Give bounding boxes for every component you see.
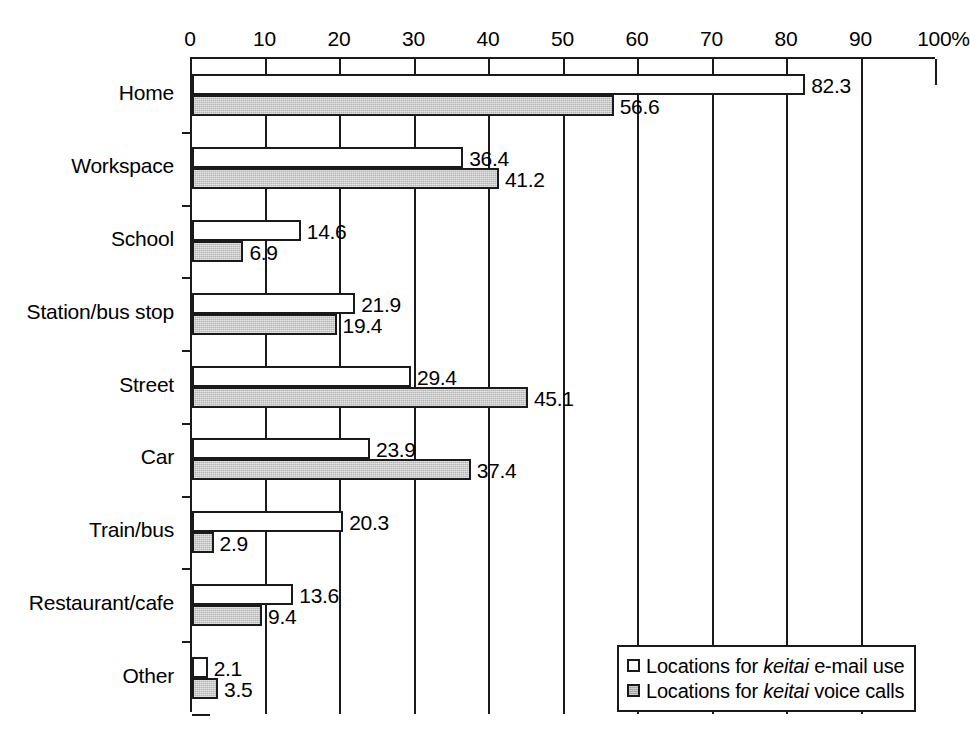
bar-value-label: 6.9 [249, 242, 277, 263]
bar-email [192, 293, 355, 314]
y-axis-category-label: Other [122, 664, 174, 688]
bar-value-label: 23.9 [376, 439, 416, 460]
plot-area: 82.356.636.441.214.66.921.919.429.445.12… [190, 57, 935, 712]
bar-email [192, 657, 208, 678]
y-axis-tick [182, 568, 192, 570]
bar-value-label: 45.1 [534, 388, 574, 409]
x-axis-tick-label: 100% [917, 26, 970, 52]
y-axis-category-label: Train/bus [89, 518, 174, 542]
plot-right-edge [935, 59, 937, 85]
x-axis-tick-label: 0 [184, 26, 195, 52]
y-axis-category-label: Car [141, 445, 174, 469]
bar-value-label: 13.6 [299, 585, 339, 606]
y-axis-tick [182, 641, 192, 643]
bar-value-label: 56.6 [620, 96, 660, 117]
y-axis-category-label: Restaurant/cafe [29, 591, 174, 615]
legend-item-email: Locations for keitai e-mail use [627, 653, 904, 678]
legend-swatch-voice-icon [627, 684, 640, 697]
x-axis-tick-label: 80 [775, 26, 798, 52]
legend-swatch-email-icon [627, 659, 640, 672]
legend-label-emphasis: keitai [763, 680, 809, 702]
bar-email [192, 366, 411, 387]
x-axis-tick-labels: 0102030405060708090100% [0, 26, 967, 52]
bar-voice [192, 241, 243, 262]
bar-voice [192, 168, 499, 189]
x-axis-tick-label: 20 [328, 26, 351, 52]
bar-email [192, 511, 343, 532]
bar-value-label: 29.4 [417, 367, 457, 388]
x-axis-tick-label: 40 [477, 26, 500, 52]
legend-item-voice: Locations for keitai voice calls [627, 678, 904, 703]
bar-value-label: 19.4 [343, 315, 383, 336]
bar-value-label: 82.3 [811, 75, 851, 96]
y-axis-category-label: Workspace [71, 154, 174, 178]
legend-label-voice: Locations for keitai voice calls [646, 680, 904, 702]
chart-legend: Locations for keitai e-mail use Location… [617, 645, 916, 712]
bar-voice [192, 678, 218, 699]
x-axis-tick-label: 50 [551, 26, 574, 52]
y-axis-category-label: Home [119, 81, 174, 105]
bar-value-label: 9.4 [268, 606, 296, 627]
bar-value-label: 36.4 [469, 148, 509, 169]
y-axis-category-label: School [111, 227, 174, 251]
x-axis-tick-label: 60 [626, 26, 649, 52]
y-axis-category-labels: HomeWorkspaceSchoolStation/bus stopStree… [0, 57, 182, 712]
gridline [712, 59, 714, 714]
bar-voice [192, 95, 614, 116]
y-axis-tick [182, 350, 192, 352]
bar-value-label: 2.9 [220, 533, 248, 554]
bar-voice [192, 387, 528, 408]
x-axis-tick-label: 70 [700, 26, 723, 52]
legend-label-email: Locations for keitai e-mail use [646, 655, 904, 677]
bar-value-label: 3.5 [224, 679, 252, 700]
bar-email [192, 438, 370, 459]
y-axis-tick [182, 132, 192, 134]
x-axis-tick-label: 30 [402, 26, 425, 52]
bar-value-label: 2.1 [214, 658, 242, 679]
gridline [786, 59, 788, 714]
bar-value-label: 37.4 [477, 460, 517, 481]
bar-voice [192, 605, 262, 626]
y-axis-tick [182, 496, 192, 498]
bar-value-label: 20.3 [349, 512, 389, 533]
y-axis-category-label: Street [119, 373, 174, 397]
y-axis-tick [182, 205, 192, 207]
bar-voice [192, 459, 471, 480]
y-axis-category-label: Station/bus stop [27, 300, 174, 324]
bar-email [192, 220, 301, 241]
bar-email [192, 584, 293, 605]
y-axis-tick [182, 423, 192, 425]
bar-value-label: 14.6 [307, 221, 347, 242]
bar-value-label: 21.9 [361, 294, 401, 315]
x-axis-tick-label: 90 [849, 26, 872, 52]
x-axis-tick-label: 10 [253, 26, 276, 52]
gridline [861, 59, 863, 714]
y-axis-tick [182, 277, 192, 279]
legend-label-emphasis: keitai [763, 655, 809, 677]
plot-bottom-stub [192, 696, 210, 716]
gridline [637, 59, 639, 714]
bar-voice [192, 532, 214, 553]
bar-email [192, 74, 805, 95]
bar-email [192, 147, 463, 168]
bar-value-label: 41.2 [505, 169, 545, 190]
bar-voice [192, 314, 337, 335]
